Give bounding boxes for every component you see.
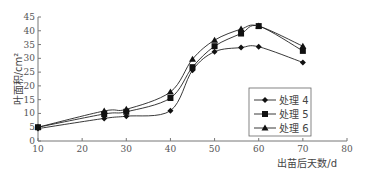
y-tick-label: 35 — [24, 40, 36, 50]
y-axis-label: 叶面积/cm² — [13, 53, 24, 106]
line-chart: 1020304050607080051015202530354045出苗后天数/… — [0, 0, 366, 174]
legend: 处理 4处理 5处理 6 — [249, 88, 311, 136]
legend-item-label: 处理 5 — [279, 109, 309, 120]
y-tick-label: 15 — [24, 95, 36, 105]
x-tick-label: 50 — [209, 144, 221, 154]
x-tick-label: 20 — [76, 144, 88, 154]
legend-item-label: 处理 4 — [279, 95, 309, 106]
x-tick-label: 80 — [341, 144, 353, 154]
x-tick-label: 60 — [253, 144, 265, 154]
y-tick-label: 20 — [24, 81, 36, 91]
y-tick-label: 5 — [29, 122, 35, 132]
y-tick-label: 45 — [24, 12, 36, 22]
x-tick-label: 40 — [165, 144, 177, 154]
x-tick-label: 70 — [297, 144, 309, 154]
y-tick-label: 40 — [24, 26, 36, 36]
y-tick-label: 10 — [24, 108, 36, 118]
legend-item-label: 处理 6 — [279, 123, 309, 134]
y-tick-label: 25 — [24, 67, 36, 77]
x-axis-label: 出苗后天数/d — [277, 157, 337, 169]
y-tick-label: 0 — [29, 136, 35, 146]
x-tick-label: 30 — [121, 144, 133, 154]
y-tick-label: 30 — [24, 53, 36, 63]
